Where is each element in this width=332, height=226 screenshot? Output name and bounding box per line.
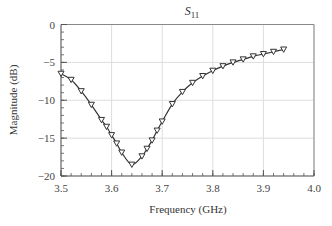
x-tick-labels: 3.53.63.73.83.94.0 <box>54 182 321 194</box>
triangle-marker-icon <box>220 64 226 69</box>
x-tick-label: 4.0 <box>307 182 321 194</box>
y-tick-label: −5 <box>43 56 55 68</box>
y-tick-label: −20 <box>38 170 56 182</box>
triangle-marker-icon <box>169 102 175 107</box>
triangle-marker-icon <box>154 128 160 133</box>
triangle-marker-icon <box>149 138 155 143</box>
y-tick-label: 0 <box>50 19 56 31</box>
triangle-marker-icon <box>58 71 64 76</box>
x-tick-label: 3.7 <box>155 182 169 194</box>
data-markers <box>58 47 287 167</box>
triangle-marker-icon <box>144 146 150 151</box>
y-axis-title: Magnitude (dB) <box>7 64 20 135</box>
chart-title: S11 <box>185 4 200 20</box>
x-tick-label: 3.9 <box>257 182 271 194</box>
x-tick-label: 3.5 <box>54 182 68 194</box>
x-tick-label: 3.6 <box>105 182 119 194</box>
x-axis-title: Frequency (GHz) <box>149 203 227 216</box>
triangle-marker-icon <box>109 133 115 138</box>
triangle-marker-icon <box>200 74 206 79</box>
triangle-marker-icon <box>104 124 110 129</box>
triangle-marker-icon <box>159 119 165 124</box>
triangle-marker-icon <box>210 68 216 73</box>
y-tick-labels: 0−5−10−15−20 <box>38 19 56 183</box>
triangle-marker-icon <box>119 150 125 155</box>
x-tick-label: 3.8 <box>206 182 220 194</box>
triangle-marker-icon <box>114 141 120 146</box>
y-tick-label: −10 <box>38 94 56 106</box>
y-tick-label: −15 <box>38 132 56 144</box>
s11-chart: 3.53.63.73.83.94.0 0−5−10−15−20 S11 Freq… <box>0 0 332 226</box>
grid-lines <box>61 25 314 177</box>
